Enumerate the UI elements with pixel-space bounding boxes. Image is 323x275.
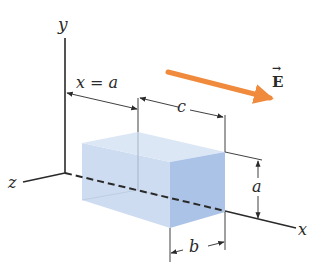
y-axis-label: y xyxy=(57,14,68,34)
z-axis-label: z xyxy=(7,173,17,192)
height-a-label: a xyxy=(252,177,262,196)
box xyxy=(82,132,225,228)
z-axis xyxy=(23,173,65,182)
diagram-canvas: y z x x = a c a b E → xyxy=(0,0,323,275)
x-axis-label: x xyxy=(298,220,307,239)
electric-field-vector xyxy=(168,72,270,98)
depth-b-label: b xyxy=(189,237,199,256)
dimension-x-equals-a xyxy=(67,93,138,132)
length-c-label: c xyxy=(177,97,186,116)
e-field-arrow xyxy=(168,72,270,98)
position-label: x = a xyxy=(76,73,118,92)
box-front-face xyxy=(170,152,225,228)
x-axis xyxy=(225,211,296,228)
e-field-vector-mark: → xyxy=(272,62,281,75)
e-field-label: E xyxy=(272,73,283,91)
